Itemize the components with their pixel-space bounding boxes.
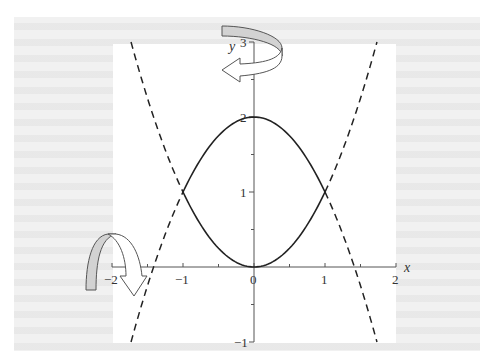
y-tick-label: 1 <box>240 185 247 200</box>
x-tick-label: −1 <box>175 272 189 287</box>
y-axis-label: y <box>227 39 236 54</box>
x-tick-label: −2 <box>104 272 118 287</box>
x-tick-label: 0 <box>250 272 257 287</box>
dashed-extension-curve <box>325 42 377 192</box>
x-tick-label: 2 <box>392 272 399 287</box>
rotation-arrow-y-axis-icon <box>222 26 282 82</box>
y-tick-label: −1 <box>234 335 248 350</box>
x-tick-label: 1 <box>321 272 328 287</box>
y-axis: −1123 <box>234 35 254 350</box>
dashed-extension-curve <box>131 42 183 192</box>
x-axis-label: x <box>403 260 411 275</box>
chart: −2−1012 −1123 x y <box>0 0 497 364</box>
